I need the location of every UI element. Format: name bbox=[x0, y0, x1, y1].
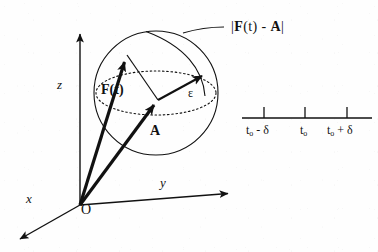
y-axis-line bbox=[80, 194, 228, 206]
tick-label-suffix: - δ bbox=[253, 123, 269, 137]
vector-F-label: F(t) bbox=[101, 83, 124, 97]
epsilon-label: ε bbox=[188, 87, 193, 99]
norm-F-symbol: F bbox=[234, 19, 243, 34]
tick-label-t-plus-delta: to + δ bbox=[327, 124, 353, 136]
norm-close-bar: | bbox=[281, 19, 284, 34]
figure-canvas: z y x O F(t) A ε |F(t) - A| to - δ to to… bbox=[0, 0, 378, 252]
vector-A-label: A bbox=[150, 124, 160, 138]
origin-label: O bbox=[81, 203, 91, 217]
x-axis-line bbox=[20, 205, 80, 239]
tick-label-subscript: o bbox=[303, 129, 307, 138]
tick-label-subscript: o bbox=[330, 129, 334, 138]
callout-leader-line bbox=[183, 27, 224, 33]
tick-label-t-minus-delta: to - δ bbox=[246, 124, 269, 136]
vector-group bbox=[80, 55, 202, 205]
norm-callout-label: |F(t) - A| bbox=[231, 20, 284, 34]
tick-label-suffix: + δ bbox=[334, 123, 352, 137]
segment-F-tip-to-A-tip bbox=[127, 55, 158, 100]
tick-label-t-zero: to bbox=[300, 124, 307, 136]
norm-A-symbol: A bbox=[270, 19, 281, 34]
diagram-svg bbox=[0, 0, 378, 252]
z-axis-label: z bbox=[57, 78, 62, 91]
sphere-meridian-arc bbox=[146, 32, 205, 97]
x-axis-label: x bbox=[26, 192, 32, 205]
number-line-group bbox=[242, 107, 372, 118]
tick-label-subscript: o bbox=[249, 129, 253, 138]
norm-minus-sign: - bbox=[258, 19, 271, 34]
vector-A bbox=[80, 105, 154, 205]
norm-t-argument: (t) bbox=[243, 19, 257, 34]
vector-epsilon-radius bbox=[158, 76, 202, 100]
y-axis-label: y bbox=[160, 176, 166, 189]
